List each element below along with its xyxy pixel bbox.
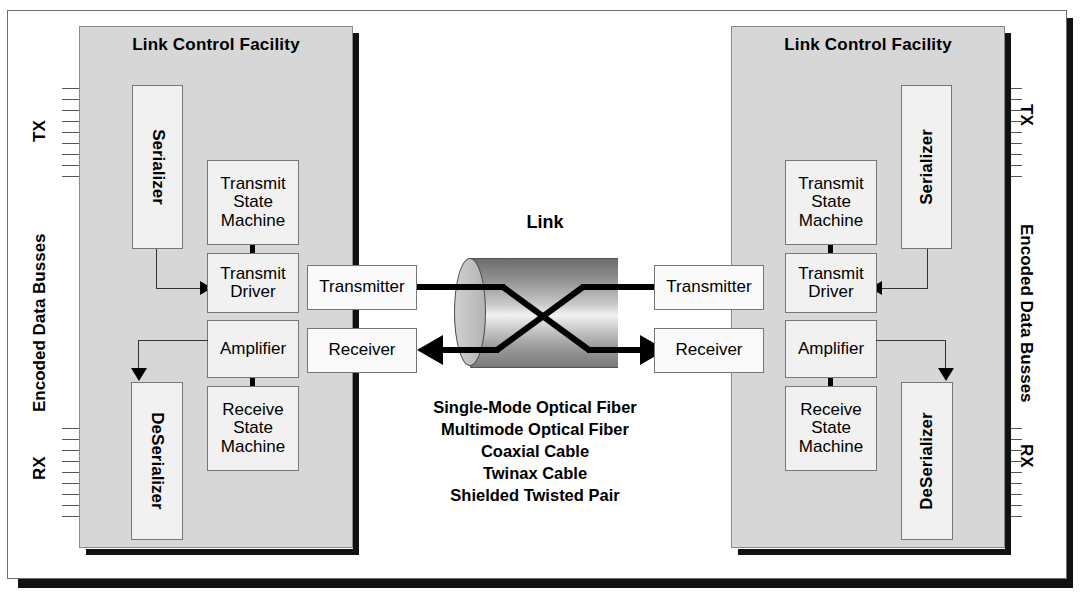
amplifier-to-deserializer-vertical-right bbox=[945, 340, 946, 370]
driver-right-line1: Transmit bbox=[798, 265, 864, 283]
label-encoded-data-busses-left: Encoded Data Busses bbox=[30, 233, 50, 412]
rsm-left-line1: Receive bbox=[221, 401, 285, 419]
label-tx-left: TX bbox=[30, 120, 50, 142]
rsm-left-line2: State bbox=[221, 419, 285, 437]
deserializer-left[interactable]: DeSerializer bbox=[131, 382, 183, 540]
diagram-canvas: TX Encoded Data Busses RX Link Control F… bbox=[0, 0, 1084, 606]
tsm-right-line2: State bbox=[798, 193, 864, 211]
media-item-4: Shielded Twisted Pair bbox=[370, 484, 700, 506]
receive-state-machine-left[interactable]: Receive State Machine bbox=[207, 386, 299, 471]
rsm-right-line1: Receive bbox=[799, 401, 863, 419]
amplifier-to-deserializer-arrow-left bbox=[131, 368, 147, 381]
amplifier-to-rsm-stub-right bbox=[828, 378, 833, 386]
transmit-state-machine-right[interactable]: Transmit State Machine bbox=[785, 160, 877, 245]
deserializer-right-label: DeSerializer bbox=[917, 412, 937, 509]
amplifier-right[interactable]: Amplifier bbox=[785, 320, 877, 378]
facility-right-shadow-bottom bbox=[738, 549, 1011, 555]
link-cylinder-cap bbox=[454, 258, 486, 366]
transmitter-right[interactable]: Transmitter bbox=[654, 265, 764, 310]
amplifier-to-deserializer-vertical-left bbox=[138, 340, 139, 370]
amplifier-to-deserializer-horizontal-right bbox=[876, 340, 946, 341]
tsm-right-line3: Machine bbox=[798, 212, 864, 230]
link-media-list: Single-Mode Optical Fiber Multimode Opti… bbox=[370, 396, 700, 507]
facility-left-shadow-bottom bbox=[86, 549, 359, 555]
facility-title-right: Link Control Facility bbox=[732, 35, 1004, 55]
tsm-left-line1: Transmit bbox=[220, 175, 286, 193]
deserializer-right[interactable]: DeSerializer bbox=[901, 382, 953, 540]
transmit-driver-right[interactable]: Transmit Driver bbox=[785, 253, 877, 313]
media-item-3: Twinax Cable bbox=[370, 462, 700, 484]
serializer-to-driver-horizontal-left bbox=[156, 288, 202, 289]
receiver-left[interactable]: Receiver bbox=[307, 328, 417, 373]
driver-right-line2: Driver bbox=[798, 283, 864, 301]
link-cylinder-body bbox=[470, 258, 618, 368]
tsm-to-driver-stub-left bbox=[250, 245, 255, 253]
transmit-driver-left[interactable]: Transmit Driver bbox=[207, 253, 299, 313]
serializer-left-label: Serializer bbox=[148, 129, 168, 205]
link-arrow-to-left-receiver bbox=[417, 335, 443, 365]
media-item-1: Multimode Optical Fiber bbox=[370, 418, 700, 440]
rsm-left-line3: Machine bbox=[221, 438, 285, 456]
serializer-right-label: Serializer bbox=[917, 129, 937, 205]
transmitter-left[interactable]: Transmitter bbox=[307, 265, 417, 310]
rsm-right-line3: Machine bbox=[799, 438, 863, 456]
receive-state-machine-right[interactable]: Receive State Machine bbox=[785, 386, 877, 471]
outer-frame-shadow-bottom bbox=[18, 578, 1073, 588]
serializer-left[interactable]: Serializer bbox=[132, 85, 183, 249]
rsm-right-line2: State bbox=[799, 419, 863, 437]
receiver-right-label: Receiver bbox=[675, 341, 742, 359]
tsm-right-line1: Transmit bbox=[798, 175, 864, 193]
link-title: Link bbox=[470, 212, 620, 233]
tsm-left-line3: Machine bbox=[220, 212, 286, 230]
serializer-to-driver-vertical-right bbox=[927, 249, 928, 288]
amplifier-right-label: Amplifier bbox=[798, 340, 864, 358]
amplifier-left[interactable]: Amplifier bbox=[207, 320, 299, 378]
deserializer-left-label: DeSerializer bbox=[147, 412, 167, 509]
facility-title-left: Link Control Facility bbox=[80, 35, 352, 55]
amplifier-to-deserializer-arrow-right bbox=[938, 368, 954, 381]
driver-left-line2: Driver bbox=[220, 283, 286, 301]
transmitter-left-label: Transmitter bbox=[319, 278, 404, 296]
media-item-0: Single-Mode Optical Fiber bbox=[370, 396, 700, 418]
tsm-left-line2: State bbox=[220, 193, 286, 211]
serializer-right[interactable]: Serializer bbox=[901, 85, 952, 249]
serializer-to-driver-horizontal-right bbox=[882, 288, 928, 289]
amplifier-to-rsm-stub-left bbox=[250, 378, 255, 386]
amplifier-to-deserializer-horizontal-left bbox=[138, 340, 208, 341]
facility-right-shadow-right bbox=[1005, 33, 1011, 555]
label-rx-left: RX bbox=[30, 456, 50, 480]
transmitter-right-label: Transmitter bbox=[666, 278, 751, 296]
tsm-to-driver-stub-right bbox=[828, 245, 833, 253]
label-encoded-data-busses-right: Encoded Data Busses bbox=[1016, 224, 1036, 403]
media-item-2: Coaxial Cable bbox=[370, 440, 700, 462]
serializer-to-driver-vertical-left bbox=[156, 249, 157, 288]
transmit-state-machine-left[interactable]: Transmit State Machine bbox=[207, 160, 299, 245]
receiver-left-label: Receiver bbox=[328, 341, 395, 359]
amplifier-left-label: Amplifier bbox=[220, 340, 286, 358]
driver-left-line1: Transmit bbox=[220, 265, 286, 283]
receiver-right[interactable]: Receiver bbox=[654, 328, 764, 373]
